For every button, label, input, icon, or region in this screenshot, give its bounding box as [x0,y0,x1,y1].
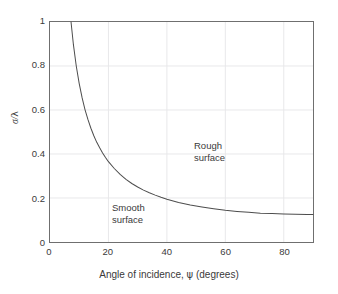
y-axis-title-lambda: λ [9,111,20,117]
y-tick-label: 0 [40,238,45,248]
x-axis-title: Angle of incidence, ψ (degrees) [0,269,338,280]
annotation-smooth-line2: surface [112,214,145,226]
x-tick-label: 60 [220,247,231,257]
x-tick-label: 0 [46,247,51,257]
annotation-smooth-surface: Smooth surface [112,202,145,225]
y-axis-title-slash: / [10,117,20,120]
annotation-rough-surface: Rough surface [194,140,225,163]
annotation-rough-line1: Rough [194,140,225,152]
x-tick-label: 20 [103,247,114,257]
y-axis-title: σ/λ [9,111,20,124]
data-curve-layer [50,22,313,242]
x-axis-title-post: (degrees) [193,269,239,280]
y-tick-label: 0.4 [32,149,45,159]
x-axis-title-pre: Angle of incidence, [99,269,186,280]
y-tick-label: 1 [40,16,45,26]
annotation-rough-line2: surface [194,152,225,164]
plot-area: Rough surface Smooth surface [49,21,314,243]
y-tick-label: 0.2 [32,194,45,204]
y-tick-label: 0.6 [32,105,45,115]
annotation-smooth-line1: Smooth [112,202,145,214]
data-curve [71,22,313,215]
y-tick-label: 0.8 [32,60,45,70]
chart-figure: 10.80.60.40.20 σ/λ Rough surface Smooth … [0,0,338,294]
y-axis-title-sigma: σ [10,119,20,124]
x-tick-label: 40 [161,247,172,257]
x-tick-label: 80 [279,247,290,257]
